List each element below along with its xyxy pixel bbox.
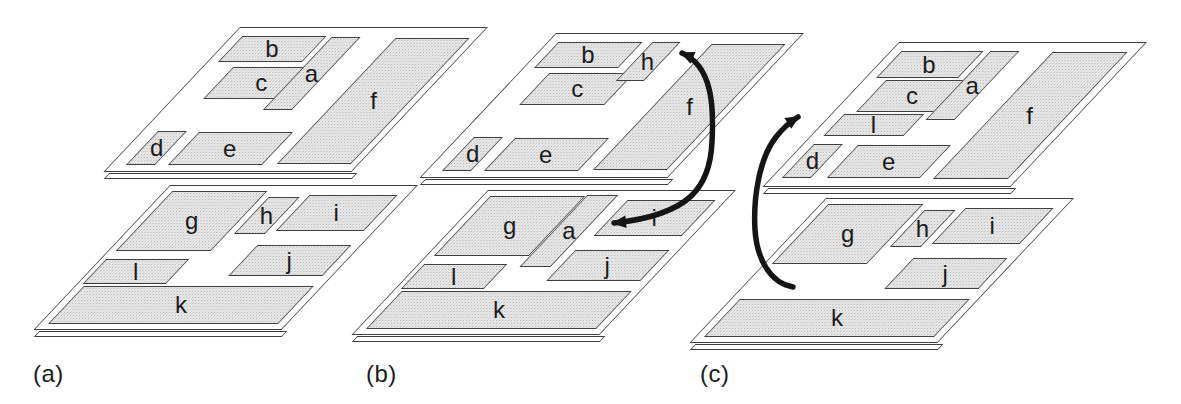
block-label-j: j: [287, 249, 292, 273]
panel-c-block-g: g: [772, 204, 924, 264]
panel-c: bcafldeghijk(c): [0, 0, 1181, 404]
panel-b-block-e: e: [484, 138, 609, 171]
block-label-h: h: [641, 50, 654, 74]
panel-a-block-j: j: [228, 245, 351, 276]
panel-a-block-c: c: [203, 67, 318, 99]
block-label-g: g: [503, 214, 516, 238]
panel-a-block-k: k: [48, 286, 314, 324]
block-label-b: b: [582, 43, 595, 67]
panel-b-block-h: h: [616, 42, 681, 81]
panel-b-block-i: i: [594, 200, 716, 236]
block-label-e: e: [540, 143, 553, 167]
swap-arrows-overlay: [0, 0, 1181, 404]
panel-c-block-i: i: [932, 208, 1054, 244]
block-label-d: d: [806, 149, 819, 173]
panel-b-block-a: a: [519, 195, 618, 267]
arrow-move-block-l-to-upper-layer: [755, 117, 798, 287]
panel-c-block-e: e: [827, 145, 951, 178]
arrow-swap-blocks-h-and-a: [614, 53, 713, 223]
block-label-b: b: [266, 37, 279, 61]
block-label-d: d: [466, 142, 479, 166]
panel-a-block-a: a: [263, 37, 361, 110]
panel-c-block-b: b: [876, 51, 983, 78]
panel-c-block-a: a: [925, 51, 1019, 120]
block-label-a: a: [966, 74, 979, 98]
block-label-e: e: [224, 137, 237, 161]
panel-label-a: (a): [33, 360, 64, 388]
block-label-f: f: [686, 95, 693, 119]
block-label-c: c: [255, 71, 267, 95]
panel-c-block-k: k: [704, 299, 970, 337]
panel-b-block-f: f: [593, 44, 786, 170]
panel-c-lower-layer: ghijk: [689, 198, 1074, 343]
panel-b-block-l: l: [401, 264, 508, 289]
panel-a-block-h: h: [234, 197, 300, 234]
panel-a-block-i: i: [276, 195, 398, 231]
block-label-i: i: [652, 206, 657, 230]
panel-a-block-g: g: [116, 191, 268, 251]
panel-a-block-b: b: [218, 36, 327, 62]
block-label-i: i: [990, 214, 995, 238]
panel-a-block-e: e: [168, 132, 293, 165]
block-label-k: k: [493, 298, 505, 322]
block-label-b: b: [923, 53, 936, 77]
panel-b: bchfdegailjk(b): [0, 0, 1181, 404]
block-label-j: j: [605, 254, 610, 278]
block-label-g: g: [185, 209, 198, 233]
panel-label-b: (b): [366, 360, 397, 388]
block-label-k: k: [175, 293, 187, 317]
block-label-h: h: [916, 217, 929, 241]
block-label-j: j: [943, 262, 948, 286]
block-label-l: l: [133, 260, 138, 284]
block-label-a: a: [562, 219, 575, 243]
panel-c-block-c: c: [856, 80, 968, 112]
figure-canvas: bcafdeghiljk(a)bchfdegailjk(b)bcafldeghi…: [0, 0, 1181, 404]
panel-a-lower-layer: ghiljk: [33, 185, 418, 330]
panel-b-block-b: b: [534, 42, 643, 68]
panel-b-block-j: j: [546, 250, 669, 281]
panel-c-block-j: j: [884, 258, 1007, 289]
block-label-i: i: [334, 201, 339, 225]
panel-a-block-l: l: [83, 259, 190, 284]
block-label-f: f: [1027, 104, 1034, 128]
panel-c-block-h: h: [890, 210, 956, 247]
panel-label-c: (c): [700, 360, 729, 388]
block-label-a: a: [305, 62, 318, 86]
block-label-k: k: [831, 306, 843, 330]
block-label-f: f: [370, 89, 377, 113]
panel-a-block-f: f: [277, 38, 470, 164]
panel-c-block-l: l: [823, 114, 924, 136]
panel-b-lower-layer: gailjk: [351, 190, 736, 335]
panel-c-block-d: d: [782, 144, 843, 178]
block-label-h: h: [260, 204, 273, 228]
block-label-g: g: [841, 222, 854, 246]
panel-c-upper-layer: bcaflde: [762, 42, 1147, 187]
panel-b-block-k: k: [366, 291, 632, 329]
panel-a-block-d: d: [126, 131, 187, 165]
block-label-c: c: [906, 84, 918, 108]
block-label-e: e: [882, 150, 895, 174]
panel-c-block-f: f: [933, 52, 1128, 179]
panel-a-upper-layer: bcafde: [103, 27, 488, 172]
panel-a: bcafdeghiljk(a): [0, 0, 1181, 404]
panel-b-block-d: d: [442, 137, 503, 171]
block-label-l: l: [871, 113, 876, 137]
panel-b-block-c: c: [519, 73, 634, 105]
panel-b-upper-layer: bchfde: [419, 33, 804, 178]
block-label-c: c: [571, 77, 583, 101]
panel-b-block-g: g: [434, 196, 586, 256]
block-label-d: d: [150, 136, 163, 160]
block-label-l: l: [451, 265, 456, 289]
